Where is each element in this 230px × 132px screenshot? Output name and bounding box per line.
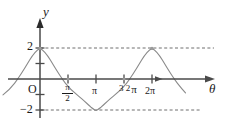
point-zero-at-pi-over-2 bbox=[67, 78, 70, 81]
y-tick-label-2: 2 bbox=[27, 40, 33, 52]
origin-label: O bbox=[28, 83, 37, 95]
point-max-at-zero bbox=[38, 47, 41, 50]
x-tick-label-three-pi-over-2: 3 2 π bbox=[119, 83, 137, 95]
x-tick-label-three-pi-over-2-numerator: 3 bbox=[119, 83, 124, 93]
x-tick-label-pi: π bbox=[92, 86, 97, 96]
point-max-at-two-pi bbox=[150, 47, 153, 50]
y-tick-label-negative-2: −2 bbox=[20, 103, 33, 115]
y-axis-label: y bbox=[43, 5, 49, 18]
x-tick-label-pi-over-2-numerator: π bbox=[62, 83, 73, 92]
x-tick-label-pi-over-2-denominator: 2 bbox=[62, 94, 73, 103]
x-tick-label-pi-over-2: π 2 bbox=[62, 83, 73, 103]
graph-canvas bbox=[0, 0, 230, 132]
point-zero-at-three-pi-over-2 bbox=[123, 78, 126, 81]
x-tick-label-two-pi: 2π bbox=[145, 86, 155, 96]
x-tick-label-three-pi-over-2-pi: π bbox=[130, 83, 137, 95]
cosine-graph-figure: y θ O 2 −2 π 2 π 3 2 π 2π bbox=[0, 0, 230, 132]
x-tick-label-three-pi-over-2-fraction: 3 2 bbox=[119, 84, 130, 93]
x-axis-label: θ bbox=[209, 82, 215, 95]
y-axis-arrowhead bbox=[36, 18, 43, 28]
x-axis-inner-arrowhead bbox=[155, 76, 163, 82]
